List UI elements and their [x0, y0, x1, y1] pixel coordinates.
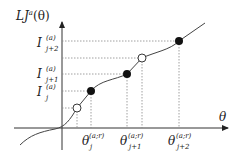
- x-tick-j+1: θ (a;r) j+1: [120, 132, 144, 151]
- svg-text:j+2: j+2: [175, 143, 190, 151]
- svg-text:I: I: [36, 85, 42, 99]
- svg-text:j+2: j+2: [44, 45, 59, 53]
- svg-text:(a;r): (a;r): [89, 132, 105, 140]
- svg-text:j+1: j+1: [127, 143, 142, 151]
- svg-text:(a;r): (a;r): [128, 132, 144, 140]
- svg-text:j: j: [44, 94, 49, 102]
- x-axis-label: θ: [219, 110, 227, 124]
- svg-text:θ: θ: [120, 134, 128, 148]
- svg-text:I: I: [36, 36, 42, 50]
- open-point: [73, 104, 81, 112]
- svg-text:(a): (a): [46, 65, 56, 73]
- svg-text:(a): (a): [46, 83, 56, 91]
- filled-point: [123, 70, 131, 78]
- y-tick-j: I (a) j: [36, 83, 56, 102]
- guide-lines: [62, 41, 179, 128]
- filled-point: [175, 37, 183, 45]
- filled-point: [87, 87, 95, 95]
- svg-text:θ: θ: [168, 134, 176, 148]
- svg-text:I: I: [36, 67, 42, 81]
- svg-text:(a;r): (a;r): [176, 132, 192, 140]
- y-axis-label: LJa(θ): [15, 9, 50, 23]
- x-tick-j: θ (a;r) j: [82, 132, 105, 151]
- open-point: [138, 54, 146, 62]
- x-tick-j+2: θ (a;r) j+2: [168, 132, 192, 151]
- step-function-diagram: LJa(θ) θ I (a) j+2 I (a) j+1 I (a) j θ (…: [0, 0, 237, 159]
- svg-text:(a): (a): [46, 34, 56, 42]
- y-tick-j+2: I (a) j+2: [36, 34, 59, 53]
- y-tick-j+1: I (a) j+1: [36, 65, 59, 84]
